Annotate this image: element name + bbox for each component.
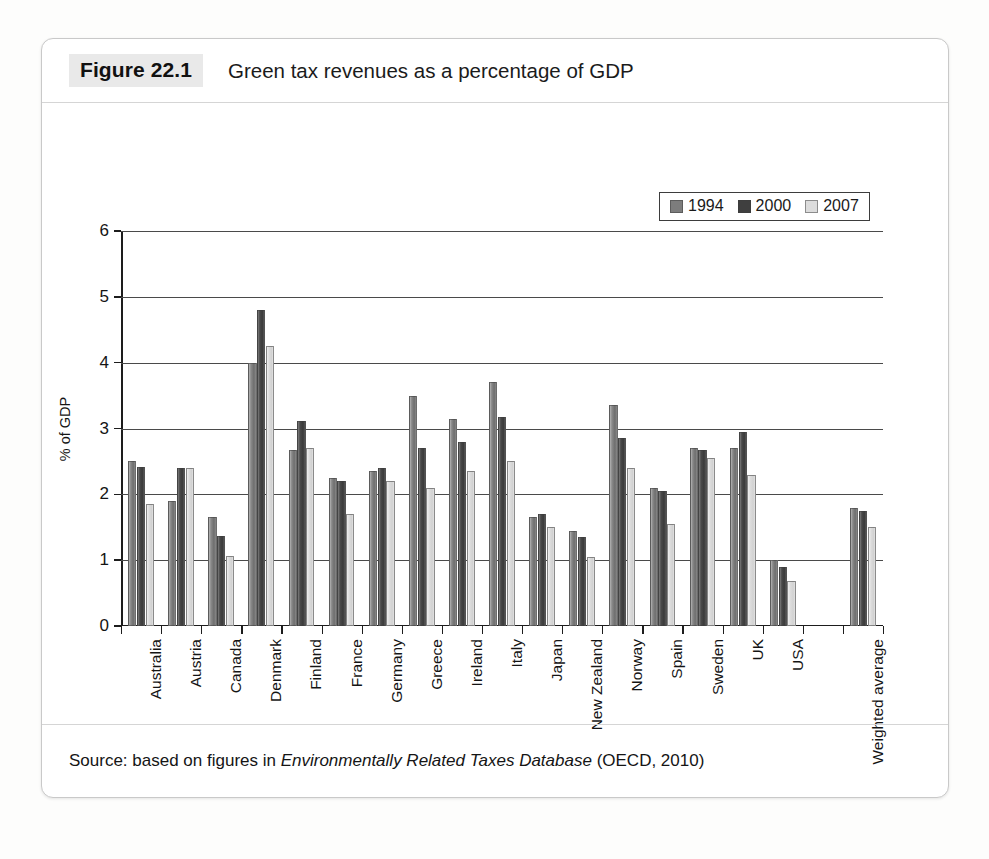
x-axis-label: Australia — [147, 639, 165, 699]
x-tick — [723, 626, 724, 634]
bar-group — [770, 231, 796, 626]
y-tick-5 — [114, 296, 121, 298]
y-tick-0 — [114, 625, 121, 627]
bar-2000 — [418, 448, 426, 626]
page-background: Figure 22.1 Green tax revenues as a perc… — [0, 0, 989, 859]
x-tick — [402, 626, 403, 634]
bar-2007 — [146, 504, 154, 626]
legend-swatch-icon — [670, 200, 683, 213]
x-tick — [161, 626, 162, 634]
bar-2000 — [739, 432, 747, 626]
y-tick-1 — [114, 559, 121, 561]
bar-2000 — [137, 467, 145, 626]
chart-legend: 199420002007 — [659, 192, 870, 221]
x-axis-label: Denmark — [267, 639, 285, 702]
y-tick-label: 3 — [100, 419, 109, 439]
y-tick-6 — [114, 230, 121, 232]
x-tick — [362, 626, 363, 634]
bar-series-layer — [121, 231, 883, 626]
bar-1994 — [850, 508, 858, 627]
bar-group — [609, 231, 635, 626]
bar-2007 — [386, 481, 394, 626]
y-tick-label: 1 — [100, 550, 109, 570]
legend-item-2000: 2000 — [738, 197, 792, 215]
legend-swatch-icon — [805, 200, 818, 213]
bar-2007 — [707, 458, 715, 626]
y-tick-3 — [114, 428, 121, 430]
bar-2000 — [177, 468, 185, 626]
bar-2000 — [658, 491, 666, 626]
bar-2007 — [667, 524, 675, 626]
x-tick — [121, 626, 122, 634]
x-tick — [281, 626, 282, 634]
bar-group — [810, 231, 836, 626]
x-axis-label: Sweden — [709, 639, 727, 695]
bar-group — [730, 231, 756, 626]
bar-1994 — [650, 488, 658, 626]
x-axis-label: Austria — [187, 639, 205, 687]
bar-2000 — [578, 537, 586, 626]
bar-2000 — [378, 468, 386, 626]
bar-2000 — [498, 417, 506, 626]
y-tick-2 — [114, 494, 121, 496]
y-axis-title: % of GDP — [57, 396, 73, 460]
bar-group — [128, 231, 154, 626]
x-axis-label: Italy — [508, 639, 526, 667]
x-axis-label: Ireland — [468, 639, 486, 686]
y-tick-label: 2 — [100, 484, 109, 504]
bar-2000 — [538, 514, 546, 626]
bar-2007 — [787, 581, 795, 626]
bar-1994 — [168, 501, 176, 626]
bar-1994 — [128, 461, 136, 626]
x-axis-label: Greece — [428, 639, 446, 690]
bar-1994 — [208, 517, 216, 626]
bar-2000 — [859, 511, 867, 626]
legend-label: 1994 — [688, 197, 724, 215]
bar-2000 — [698, 450, 706, 626]
bar-2000 — [458, 442, 466, 626]
y-tick-label: 0 — [100, 616, 109, 636]
bar-2000 — [257, 310, 265, 626]
bar-2000 — [779, 567, 787, 626]
bar-1994 — [409, 396, 417, 626]
bar-group — [369, 231, 395, 626]
x-tick — [482, 626, 483, 634]
legend-label: 2000 — [756, 197, 792, 215]
x-axis-label: UK — [749, 639, 767, 661]
bar-2007 — [346, 514, 354, 626]
y-tick-label: 6 — [100, 221, 109, 241]
bar-2007 — [266, 346, 274, 626]
y-tick-label: 5 — [100, 287, 109, 307]
bar-1994 — [529, 517, 537, 626]
x-axis-label: France — [348, 639, 366, 687]
x-axis-label: Finland — [307, 639, 325, 690]
bar-group — [489, 231, 515, 626]
bar-2000 — [618, 438, 626, 626]
bar-group — [208, 231, 234, 626]
bar-2007 — [747, 475, 755, 626]
x-tick — [522, 626, 523, 634]
bar-1994 — [248, 363, 256, 626]
figure-number-badge: Figure 22.1 — [69, 54, 203, 87]
y-tick-label: 4 — [100, 353, 109, 373]
bar-2007 — [186, 468, 194, 626]
bar-2000 — [217, 536, 225, 626]
x-axis-label: Spain — [668, 639, 686, 679]
bar-1994 — [690, 448, 698, 626]
x-tick — [241, 626, 242, 634]
bar-1994 — [489, 382, 497, 626]
source-prefix: Source: based on figures in — [69, 751, 281, 770]
legend-item-2007: 2007 — [805, 197, 859, 215]
x-tick — [843, 626, 844, 634]
bar-group — [329, 231, 355, 626]
x-axis-label: Canada — [227, 639, 245, 693]
x-tick — [442, 626, 443, 634]
x-tick — [562, 626, 563, 634]
x-tick — [682, 626, 683, 634]
bar-2000 — [297, 421, 305, 626]
bar-1994 — [369, 471, 377, 626]
figure-header: Figure 22.1 Green tax revenues as a perc… — [42, 39, 948, 103]
bar-2007 — [507, 461, 515, 626]
bar-1994 — [730, 448, 738, 626]
source-suffix: (OECD, 2010) — [592, 751, 704, 770]
